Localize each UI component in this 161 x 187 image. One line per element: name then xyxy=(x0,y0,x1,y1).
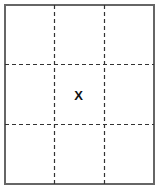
center-cell-mark: X xyxy=(74,89,83,102)
